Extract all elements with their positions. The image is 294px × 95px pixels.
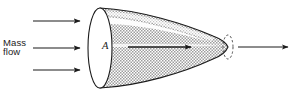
mass-flow-label: Mass flow [3, 38, 26, 56]
figure-canvas [0, 0, 294, 95]
nozzle-body [88, 8, 233, 88]
mass-flow-arrow-group [33, 21, 80, 70]
inlet-area-label: A [102, 41, 108, 50]
nozzle-mass-flow-figure: Mass flow A [0, 0, 294, 95]
mass-flow-label-line2: flow [3, 47, 26, 56]
